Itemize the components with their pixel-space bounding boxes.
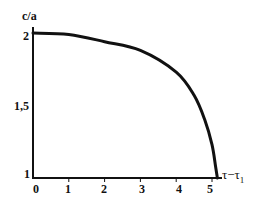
x-axis-label-subscript: 1 [240, 175, 245, 185]
x-tick-label-2: 2 [101, 183, 107, 195]
data-curve [33, 33, 217, 178]
x-tick-label-0: 0 [33, 183, 39, 195]
x-axis-label-main: τ−τ [222, 167, 240, 182]
y-axis-label: c/a [22, 10, 37, 22]
x-tick-label-1: 1 [65, 183, 71, 195]
chart-canvas [0, 0, 259, 201]
x-tick-label-5: 5 [207, 183, 213, 195]
y-tick-label-2: 2 [23, 30, 29, 42]
y-tick-label-1-5: 1,5 [14, 100, 29, 112]
x-tick-label-4: 4 [176, 183, 182, 195]
x-axis-label: τ−τ1 [222, 168, 244, 185]
y-tick-label-1: 1 [24, 168, 30, 180]
x-tick-label-3: 3 [139, 183, 145, 195]
